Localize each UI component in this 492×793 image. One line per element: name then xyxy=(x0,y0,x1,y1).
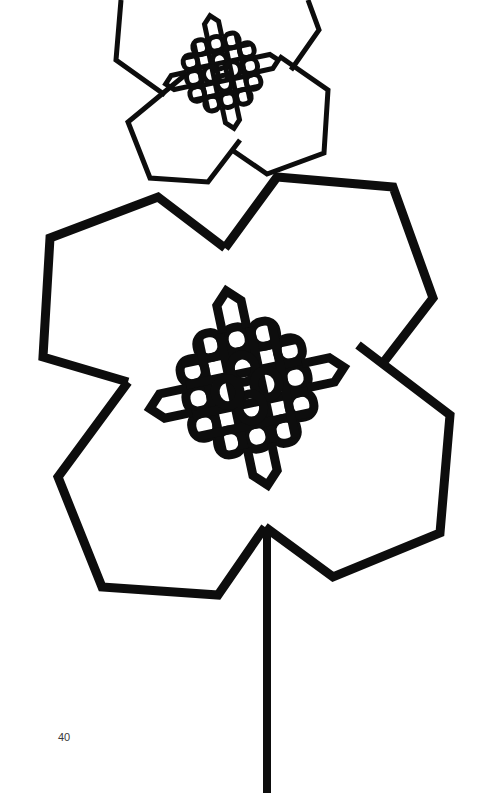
small-flower-petal-1 xyxy=(116,0,165,95)
flower-illustration xyxy=(0,0,492,793)
small-flower-petal-2 xyxy=(291,0,319,70)
page-number: 40 xyxy=(58,731,70,743)
small-flower-knot-center xyxy=(154,4,291,141)
large-flower-petal-3 xyxy=(265,345,450,577)
large-flower-knot-center xyxy=(129,270,364,505)
